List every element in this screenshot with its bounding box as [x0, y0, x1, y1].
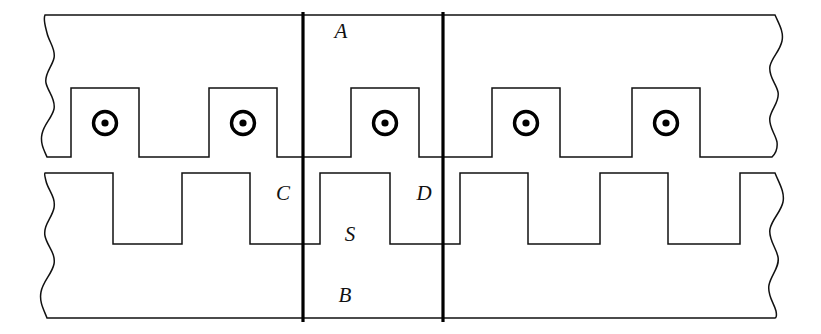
toothed-secondary-outline [41, 173, 784, 318]
conductor-symbol [374, 112, 397, 135]
diagram-root: A C D S B [0, 0, 821, 334]
label-S: S [345, 222, 356, 246]
conductor-symbol [94, 112, 117, 135]
label-B: B [339, 283, 352, 307]
slotted-primary-outline [41, 15, 782, 157]
conductor-symbol [232, 112, 255, 135]
machine-cross-section-diagram: A C D S B [0, 0, 821, 334]
conductor-symbol [655, 112, 678, 135]
label-A: A [333, 19, 348, 43]
label-C: C [276, 181, 291, 205]
label-D: D [415, 181, 431, 205]
conductor-symbol [515, 112, 538, 135]
